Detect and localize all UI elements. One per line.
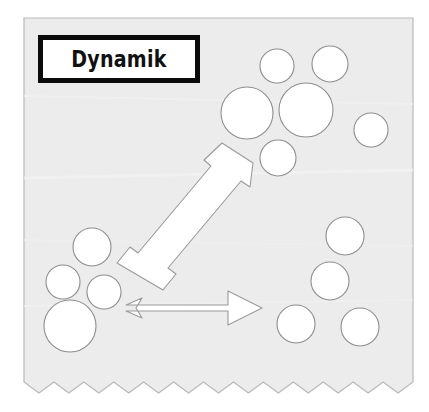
circle-lr-4 <box>341 308 379 346</box>
diagram-canvas: Dynamik <box>0 0 429 412</box>
circle-ur-3 <box>221 87 273 139</box>
circle-lr-2 <box>311 262 349 300</box>
title-box: Dynamik <box>38 35 200 83</box>
circle-ur-5 <box>354 113 388 147</box>
circle-src-4 <box>44 300 96 352</box>
circle-lr-1 <box>326 217 364 255</box>
circle-ur-6 <box>260 140 296 176</box>
page-title: Dynamik <box>71 46 167 72</box>
circle-src-1 <box>73 228 111 266</box>
circle-src-3 <box>87 275 121 309</box>
circle-src-2 <box>46 265 80 299</box>
circle-ur-2 <box>312 46 348 82</box>
circle-ur-1 <box>260 49 294 83</box>
circle-lr-3 <box>277 305 315 343</box>
circle-ur-4 <box>279 83 333 137</box>
